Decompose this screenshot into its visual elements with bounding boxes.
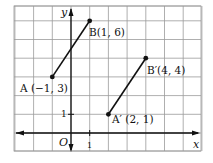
x-axis-left-arrow-icon [16, 131, 24, 136]
origin-label: O [59, 136, 68, 149]
y-axis-up-arrow-icon [69, 8, 74, 16]
point-a-prime [106, 112, 111, 117]
point-b [87, 18, 92, 23]
y-axis-label: y [60, 6, 68, 19]
coordinate-plane: y x O 1 1 A (−1, 3) B(1, 6) A′ (2, 1) B′… [0, 0, 213, 163]
x-axis-right-arrow-icon [192, 131, 200, 136]
point-label-a-prime: A′ (2, 1) [111, 113, 154, 125]
point-label-b: B(1, 6) [89, 26, 125, 38]
point-label-a: A (−1, 3) [19, 82, 68, 94]
point-label-b-prime: B′(4, 4) [147, 64, 185, 76]
point-a [50, 75, 55, 80]
y-tick-label: 1 [61, 109, 67, 119]
y-axis [69, 8, 74, 152]
x-tick-label: 1 [87, 141, 92, 150]
x-axis-label: x [193, 138, 200, 151]
point-b-prime [143, 56, 148, 61]
